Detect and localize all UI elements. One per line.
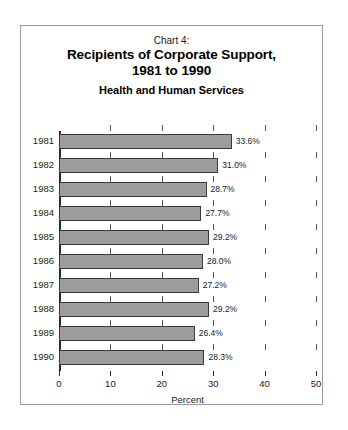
gap-tick-mark xyxy=(265,248,266,254)
bar-value-label: 29.2% xyxy=(213,231,237,243)
gap-tick-mark xyxy=(162,344,163,350)
gap-tick-mark xyxy=(316,320,317,326)
gap-tick-mark xyxy=(265,272,266,278)
bar-value-label: 28.3% xyxy=(208,351,232,363)
gap-tick-mark xyxy=(316,248,317,254)
gap-tick-mark xyxy=(162,320,163,326)
plot-inner: Percent 198133.6%198231.0%198328.7%19842… xyxy=(59,131,316,371)
top-tick-mark xyxy=(213,125,214,131)
top-tick-mark xyxy=(316,125,317,131)
gap-tick-mark xyxy=(265,224,266,230)
bar xyxy=(59,302,209,317)
x-axis-tick xyxy=(110,371,111,376)
bar-row: 198727.2% xyxy=(59,275,316,299)
x-axis-tick-label: 30 xyxy=(208,378,219,390)
gap-tick-mark xyxy=(110,224,111,230)
gap-tick-mark xyxy=(265,176,266,182)
x-axis-tick-label: 20 xyxy=(157,378,168,390)
gap-tick-mark xyxy=(316,224,317,230)
x-axis-tick xyxy=(316,371,317,376)
bar-value-label: 31.0% xyxy=(222,159,246,171)
bar-row: 198133.6% xyxy=(59,131,316,155)
gap-tick-mark xyxy=(265,296,266,302)
bar xyxy=(59,134,232,149)
gap-tick-mark xyxy=(316,176,317,182)
y-axis-tick-label: 1987 xyxy=(33,279,54,291)
y-axis-tick-label: 1984 xyxy=(33,207,54,219)
gap-tick-mark xyxy=(213,200,214,206)
bar xyxy=(59,326,195,341)
gap-tick-mark xyxy=(213,248,214,254)
bar-row: 198829.2% xyxy=(59,299,316,323)
gap-tick-mark xyxy=(213,152,214,158)
gap-tick-mark xyxy=(213,296,214,302)
bar-row: 198926.4% xyxy=(59,323,316,347)
x-axis-tick-label: 40 xyxy=(259,378,270,390)
bar-row: 198427.7% xyxy=(59,203,316,227)
y-axis-tick-label: 1983 xyxy=(33,183,54,195)
x-axis-tick-label: 50 xyxy=(311,378,322,390)
gap-tick-mark xyxy=(162,248,163,254)
bar xyxy=(59,230,209,245)
bar xyxy=(59,182,207,197)
y-axis-tick-label: 1990 xyxy=(33,351,54,363)
top-tick-mark xyxy=(265,125,266,131)
gap-tick-mark xyxy=(110,344,111,350)
bar-value-label: 28.0% xyxy=(207,255,231,267)
chart-title-block: Chart 4: Recipients of Corporate Support… xyxy=(21,26,322,98)
bar-value-label: 27.7% xyxy=(205,207,229,219)
gap-tick-mark xyxy=(110,272,111,278)
gap-tick-mark xyxy=(110,248,111,254)
chart-title-line-2: 1981 to 1990 xyxy=(21,63,322,79)
x-axis-label: Percent xyxy=(59,394,316,405)
bar-row: 198628.0% xyxy=(59,251,316,275)
gap-tick-mark xyxy=(213,320,214,326)
chart-title-line-1: Recipients of Corporate Support, xyxy=(21,47,322,63)
gap-tick-mark xyxy=(110,296,111,302)
chart-figure: Chart 4: Recipients of Corporate Support… xyxy=(20,25,323,405)
top-tick-mark xyxy=(162,125,163,131)
gap-tick-mark xyxy=(110,320,111,326)
gap-tick-mark xyxy=(316,272,317,278)
gap-tick-mark xyxy=(162,224,163,230)
gap-tick-mark xyxy=(316,296,317,302)
x-axis-tick xyxy=(213,371,214,376)
gap-tick-mark xyxy=(265,344,266,350)
bar-row: 198328.7% xyxy=(59,179,316,203)
gap-tick-mark xyxy=(265,200,266,206)
gap-tick-mark xyxy=(162,152,163,158)
plot-area: Percent 198133.6%198231.0%198328.7%19842… xyxy=(21,121,322,404)
y-axis-tick-label: 1981 xyxy=(33,135,54,147)
gap-tick-mark xyxy=(316,152,317,158)
bar-row: 199028.3% xyxy=(59,347,316,371)
gap-tick-mark xyxy=(162,296,163,302)
gap-tick-mark xyxy=(213,224,214,230)
bar-row: 198231.0% xyxy=(59,155,316,179)
y-axis-tick-label: 1989 xyxy=(33,327,54,339)
y-axis-tick-label: 1988 xyxy=(33,303,54,315)
bar-row: 198529.2% xyxy=(59,227,316,251)
gap-tick-mark xyxy=(162,200,163,206)
bar xyxy=(59,254,203,269)
gap-tick-mark xyxy=(265,320,266,326)
gap-tick-mark xyxy=(110,200,111,206)
gap-tick-mark xyxy=(162,272,163,278)
gap-tick-mark xyxy=(213,176,214,182)
bar-value-label: 33.6% xyxy=(236,135,260,147)
y-axis-tick-label: 1982 xyxy=(33,159,54,171)
x-axis-tick xyxy=(162,371,163,376)
gap-tick-mark xyxy=(265,152,266,158)
x-axis-tick xyxy=(265,371,266,376)
bar-value-label: 28.7% xyxy=(211,183,235,195)
gap-tick-mark xyxy=(213,344,214,350)
gap-tick-mark xyxy=(110,152,111,158)
y-axis-tick-label: 1985 xyxy=(33,231,54,243)
bar-value-label: 27.2% xyxy=(203,279,227,291)
chart-subtitle: Health and Human Services xyxy=(21,83,322,98)
y-axis-tick-label: 1986 xyxy=(33,255,54,267)
gap-tick-mark xyxy=(213,272,214,278)
bar xyxy=(59,350,204,365)
gap-tick-mark xyxy=(316,200,317,206)
gap-tick-mark xyxy=(316,344,317,350)
bar-value-label: 26.4% xyxy=(199,327,223,339)
